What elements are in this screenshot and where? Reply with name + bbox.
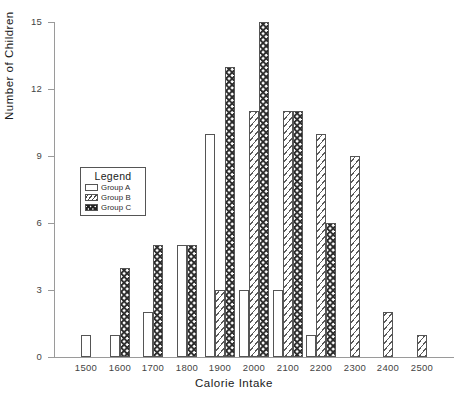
y-tick-mark (48, 357, 54, 358)
bar-group-a-1900 (205, 134, 215, 357)
bar-group-b-2400 (383, 312, 393, 357)
legend-swatch-icon (85, 194, 98, 201)
bar-group-b-2000 (249, 111, 259, 357)
bar-group-c-2200 (326, 223, 336, 357)
legend-swatch-icon (85, 184, 98, 191)
bar-group-b-2500 (417, 335, 427, 357)
y-axis-title: Number of Children (3, 11, 15, 120)
bar-group-a-1600 (110, 335, 120, 357)
legend-item-group-c: Group C (85, 203, 141, 212)
legend-item-label: Group A (101, 183, 130, 192)
x-axis-line (54, 357, 454, 358)
bar-group-c-1700 (153, 245, 163, 357)
bar-group-b-2300 (350, 156, 360, 357)
bar-group-a-2200 (306, 335, 316, 357)
legend-item-group-a: Group A (85, 183, 141, 192)
bar-group-c-1600 (120, 268, 130, 357)
bar-group-c-2000 (259, 22, 269, 357)
bar-group-a-1700 (143, 312, 153, 357)
bar-group-a-1500 (81, 335, 91, 357)
bar-group-c-1800 (187, 245, 197, 357)
y-tick-label: 6 (16, 217, 42, 228)
bar-group-c-2100 (293, 111, 303, 357)
y-tick-label: 12 (16, 83, 42, 94)
legend-rows: Group AGroup BGroup C (85, 183, 141, 212)
legend-item-label: Group B (101, 193, 131, 202)
legend-item-label: Group C (101, 203, 131, 212)
bar-group-a-1800 (177, 245, 187, 357)
bar-group-a-2000 (239, 290, 249, 357)
legend-swatch-icon (85, 204, 98, 211)
bar-group-b-1900 (215, 290, 225, 357)
y-tick-label: 15 (16, 16, 42, 27)
y-tick-label: 9 (16, 150, 42, 161)
legend-title: Legend (85, 170, 141, 182)
bar-group-b-2100 (283, 111, 293, 357)
y-tick-label: 0 (16, 351, 42, 362)
bar-group-a-2100 (273, 290, 283, 357)
y-tick-label: 3 (16, 284, 42, 295)
bar-group-b-2200 (316, 134, 326, 357)
x-axis-title: Calorie Intake (0, 377, 468, 389)
legend-item-group-b: Group B (85, 193, 141, 202)
histogram-chart: Number of Children 03691215 150016001700… (0, 0, 468, 403)
legend-box: Legend Group AGroup BGroup C (80, 167, 146, 216)
x-tick-label: 2500 (402, 362, 442, 373)
bar-group-c-1900 (225, 67, 235, 357)
